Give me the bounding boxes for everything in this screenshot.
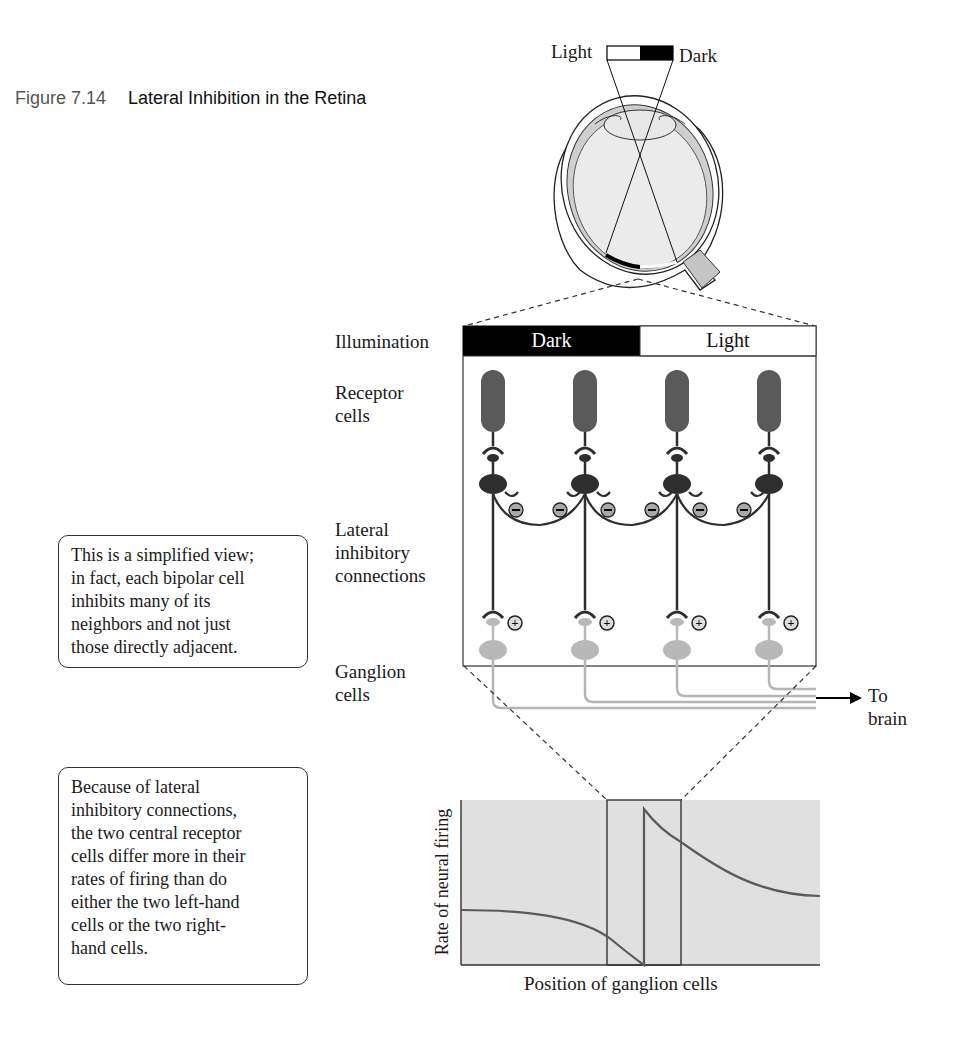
note-simplified-view: This is a simplified view; in fact, each…: [58, 535, 308, 668]
ganglion-cell: [479, 640, 507, 660]
stimulus-dark: [640, 46, 673, 60]
note-text: Because of lateral inhibitory connection…: [71, 776, 297, 960]
stimulus-dark-label: Dark: [679, 44, 717, 67]
bipolar-cell: [479, 474, 507, 494]
svg-text:+: +: [788, 616, 795, 630]
svg-text:+: +: [604, 616, 611, 630]
receptor-cells-label: Receptor cells: [335, 381, 404, 427]
stimulus-light-label: Light: [551, 40, 592, 63]
note-text: This is a simplified view; in fact, each…: [71, 544, 297, 659]
retina-circuit: + +: [463, 326, 862, 708]
band-light-label: Light: [640, 329, 816, 352]
arrow-head-icon: [850, 692, 862, 704]
chart-x-label: Position of ganglion cells: [524, 972, 718, 995]
to-brain-label: To brain: [868, 684, 907, 730]
note-lateral-inhibition: Because of lateral inhibitory connection…: [58, 767, 308, 985]
receptor-cell: [481, 370, 505, 432]
ganglion-cells-label: Ganglion cells: [335, 660, 406, 706]
illumination-label: Illumination: [335, 330, 429, 353]
chart-y-label: Rate of neural firing: [432, 792, 452, 972]
band-dark-label: Dark: [463, 329, 640, 352]
lateral-inhibitory-label: Lateral inhibitory connections: [335, 518, 426, 587]
svg-text:+: +: [696, 616, 703, 630]
firing-rate-chart: [461, 800, 820, 965]
eye-illustration: [541, 46, 738, 292]
svg-text:+: +: [512, 616, 519, 630]
